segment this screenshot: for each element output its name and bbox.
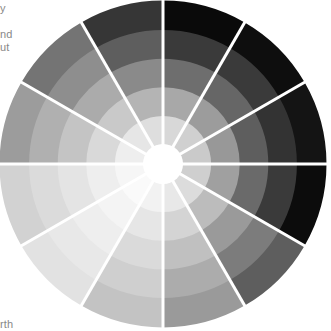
tonal-color-wheel <box>0 0 331 331</box>
wheel-center-hub <box>143 144 183 184</box>
text-fragment: nd <box>0 28 13 40</box>
text-fragment: ut <box>0 41 10 53</box>
text-fragment: rth <box>0 318 13 330</box>
text-fragment: y <box>0 2 6 14</box>
